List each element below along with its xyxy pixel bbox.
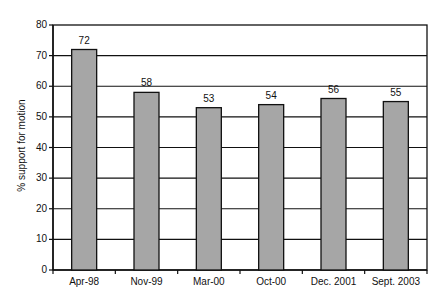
- x-tick-label: Mar-00: [174, 276, 244, 287]
- bar: [321, 99, 346, 271]
- y-tick-label: 0: [25, 264, 47, 275]
- x-tick-label: Sept. 2003: [361, 276, 431, 287]
- bar: [383, 102, 408, 270]
- bar-value-label: 58: [127, 77, 167, 88]
- y-tick-label: 40: [25, 142, 47, 153]
- x-tick-label: Apr-98: [49, 276, 119, 287]
- y-tick-label: 70: [25, 50, 47, 61]
- bar: [134, 92, 159, 270]
- y-tick-label: 80: [25, 19, 47, 30]
- y-tick-label: 10: [25, 233, 47, 244]
- x-tick-label: Dec. 2001: [299, 276, 369, 287]
- x-tick-label: Nov-99: [112, 276, 182, 287]
- y-tick-label: 30: [25, 172, 47, 183]
- y-tick-label: 50: [25, 111, 47, 122]
- bar: [196, 108, 221, 270]
- x-tick-label: Oct-00: [236, 276, 306, 287]
- bar-chart: % support for motion 01020304050607080 A…: [0, 0, 447, 302]
- bar-value-label: 53: [189, 93, 229, 104]
- y-tick-label: 20: [25, 203, 47, 214]
- bar-value-label: 72: [64, 35, 104, 46]
- bar-value-label: 55: [376, 87, 416, 98]
- bar-value-label: 56: [314, 84, 354, 95]
- bar: [259, 105, 284, 270]
- y-tick-label: 60: [25, 80, 47, 91]
- bar: [72, 50, 97, 271]
- bar-value-label: 54: [251, 90, 291, 101]
